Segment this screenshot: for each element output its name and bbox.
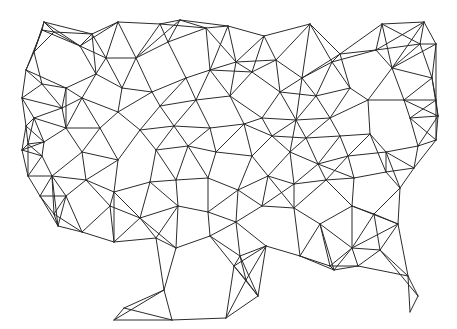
mesh-edge [392, 68, 404, 100]
mesh-edge [122, 58, 136, 88]
mesh-edge [210, 62, 236, 70]
mesh-edge [44, 22, 92, 34]
mesh-edge [334, 266, 358, 270]
mesh-edge [160, 24, 168, 42]
mesh-edge [386, 152, 414, 168]
mesh-edge [58, 226, 82, 232]
mesh-edge [82, 128, 100, 152]
mesh-edge [210, 124, 244, 128]
mesh-edge [156, 146, 188, 150]
mesh-edge [252, 136, 272, 156]
mesh-edge [352, 214, 374, 248]
mesh-edge [26, 126, 28, 144]
mesh-edge [180, 20, 228, 26]
mesh-edge [294, 208, 300, 256]
mesh-edge [262, 118, 296, 120]
mesh-edge [206, 28, 236, 62]
mesh-edge [210, 236, 234, 266]
mesh-edge [236, 222, 266, 246]
mesh-edge [34, 52, 42, 84]
mesh-edge [302, 62, 332, 78]
mesh-edge [370, 134, 386, 152]
mesh-edge [66, 128, 82, 152]
mesh-edge [42, 156, 52, 176]
mesh-edge [294, 180, 326, 208]
mesh-edge [118, 112, 140, 130]
mesh-edge [150, 150, 156, 182]
mesh-edge [404, 78, 432, 100]
mesh-edge [62, 108, 66, 128]
mesh-edge [86, 180, 114, 192]
mesh-edge [82, 206, 110, 232]
mesh-edge [140, 218, 176, 248]
mesh-edge [410, 296, 418, 312]
mesh-edge [376, 22, 424, 50]
mesh-edge [66, 88, 82, 98]
mesh-edge [262, 176, 268, 206]
mesh-edge [236, 206, 262, 222]
mesh-edge [140, 106, 160, 130]
mesh-edge [140, 206, 178, 218]
mesh-edge [348, 134, 370, 156]
mesh-edge [210, 236, 240, 256]
mesh-edge [228, 26, 264, 36]
mesh-edge [352, 224, 398, 248]
mesh-edge [332, 62, 350, 88]
mesh-edge [176, 178, 208, 180]
mesh-edge [352, 248, 358, 266]
mesh-edge [208, 178, 238, 190]
mesh-edge [26, 70, 42, 84]
mesh-edge [380, 250, 418, 296]
mesh-edge [44, 128, 66, 142]
mesh-edge [140, 130, 156, 150]
mesh-edge [172, 318, 226, 320]
mesh-edge [114, 218, 140, 242]
mesh-edge [176, 206, 178, 248]
mesh-edge [272, 136, 306, 138]
mesh-edge [52, 176, 86, 180]
mesh-edge [424, 22, 436, 44]
mesh-edge [210, 128, 216, 152]
mesh-edge [42, 84, 62, 108]
mesh-edge [236, 62, 252, 72]
mesh-edge [22, 84, 42, 98]
mesh-edge [196, 70, 210, 100]
mesh-edge [86, 160, 118, 180]
mesh-edge [208, 212, 236, 222]
mesh-edge [42, 142, 44, 156]
mesh-edge [326, 178, 354, 180]
mesh-edge [168, 28, 206, 42]
mesh-edge [352, 178, 354, 206]
mesh-edge [272, 136, 290, 152]
mesh-edge [290, 152, 294, 184]
mesh-edge [330, 248, 352, 266]
mesh-edge [86, 180, 110, 206]
mesh-edge [26, 52, 34, 70]
mesh-edge [124, 308, 172, 320]
mesh-edge [66, 180, 86, 196]
mesh-edge [320, 206, 352, 224]
mesh-edge [114, 192, 140, 218]
mesh-edge [382, 24, 420, 44]
mesh-edge [296, 118, 330, 120]
mesh-edge [118, 22, 160, 24]
mesh-edge [118, 88, 122, 112]
mesh-edge [318, 156, 348, 164]
mesh-edge [306, 136, 340, 138]
mesh-edge [100, 112, 118, 128]
mesh-edge [150, 180, 176, 182]
mesh-edge [210, 70, 252, 72]
mesh-edge [34, 118, 66, 128]
mesh-edge [262, 206, 294, 208]
mesh-edge [188, 128, 210, 146]
mesh-edge [186, 78, 196, 100]
mesh-edge [28, 156, 42, 176]
mesh-edge [266, 246, 300, 256]
mesh-edge [408, 276, 410, 312]
mesh-edge [368, 68, 392, 100]
mesh-edge [268, 176, 294, 184]
mesh-edge [82, 152, 118, 160]
mesh-edge [164, 248, 176, 290]
mesh-edge [348, 152, 386, 156]
mesh-edge [82, 152, 86, 180]
